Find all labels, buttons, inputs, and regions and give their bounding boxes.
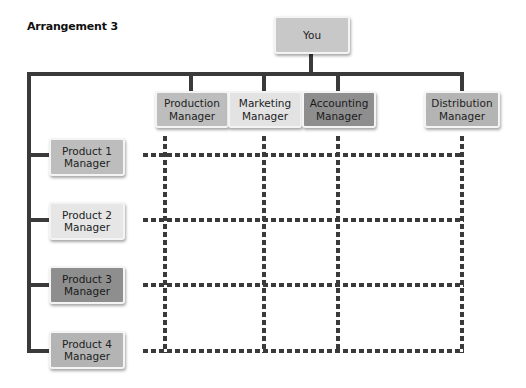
dashed-row-product1 bbox=[143, 153, 464, 157]
you-box: You bbox=[274, 16, 350, 54]
product1-connector bbox=[27, 153, 51, 157]
left-vertical-connector bbox=[27, 72, 31, 353]
product2-connector bbox=[27, 218, 51, 222]
distribution-manager-box: Distribution Manager bbox=[424, 91, 500, 128]
dashed-column-distribution bbox=[460, 136, 464, 353]
marketing-manager-box: Marketing Manager bbox=[228, 91, 302, 128]
dashed-column-production bbox=[163, 136, 167, 353]
production-manager-box: Production Manager bbox=[155, 91, 229, 128]
dashed-row-product2 bbox=[143, 218, 464, 222]
dashed-column-accounting bbox=[336, 136, 340, 353]
accounting-manager-box: Accounting Manager bbox=[302, 91, 376, 128]
dashed-row-product3 bbox=[143, 283, 464, 287]
product1-manager-box: Product 1 Manager bbox=[49, 138, 125, 176]
dashed-row-product4 bbox=[143, 349, 464, 353]
dashed-column-marketing bbox=[262, 136, 266, 353]
product3-manager-box: Product 3 Manager bbox=[49, 266, 125, 304]
product4-connector bbox=[27, 349, 51, 353]
product3-connector bbox=[27, 283, 51, 287]
diagram-title: Arrangement 3 bbox=[27, 20, 118, 33]
product4-manager-box: Product 4 Manager bbox=[49, 331, 125, 369]
top-horizontal-connector bbox=[27, 72, 464, 76]
product2-manager-box: Product 2 Manager bbox=[49, 202, 125, 240]
